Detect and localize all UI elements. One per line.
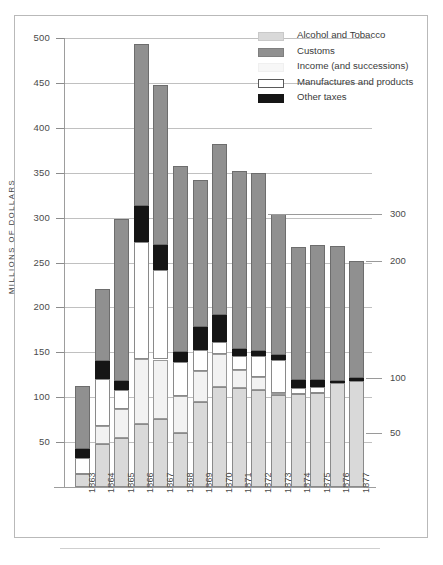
legend-item-manufactures[interactable]: Manufactures and products	[258, 76, 433, 92]
legend-item-alcohol[interactable]: Alcohol and Tobacco	[258, 29, 433, 45]
legend-item-other-taxes[interactable]: Other taxes	[258, 91, 433, 107]
bar-segment-other	[349, 378, 364, 381]
x-tick-label: 1871	[243, 472, 253, 493]
bar-segment-income	[153, 360, 168, 419]
bar-segment-income	[193, 371, 208, 402]
bar-segment-other	[212, 315, 227, 343]
legend-item-income[interactable]: Income (and successions)	[258, 60, 433, 76]
bar-segment-customs	[153, 85, 168, 245]
bar-segment-customs	[349, 261, 364, 379]
bar-1875[interactable]	[310, 245, 325, 487]
bar-segment-other	[232, 349, 247, 356]
x-tick-label: 1868	[185, 472, 195, 493]
legend-label: Alcohol and Tobacco	[297, 29, 385, 40]
legend-item-customs[interactable]: Customs	[258, 45, 433, 61]
bar-segment-income	[251, 377, 266, 390]
legend: Alcohol and Tobacco Customs Income (and …	[258, 29, 433, 107]
bar-segment-customs	[251, 173, 266, 351]
x-tick-label: 1873	[283, 472, 293, 493]
bar-segment-other	[310, 380, 325, 387]
bar-1869[interactable]	[193, 180, 208, 487]
bar-segment-income	[114, 409, 129, 438]
legend-label: Other taxes	[297, 91, 347, 102]
bar-segment-income	[212, 354, 227, 387]
bar-segment-customs	[114, 219, 129, 381]
annotation-label: 50	[390, 427, 401, 438]
legend-label: Manufactures and products	[297, 76, 413, 87]
bar-1867[interactable]	[153, 85, 168, 487]
annotation-leader-line	[268, 214, 382, 215]
bar-1866[interactable]	[134, 44, 149, 487]
bar-1872[interactable]	[251, 173, 266, 487]
bar-segment-manuf	[251, 356, 266, 378]
bar-1870[interactable]	[212, 144, 227, 487]
legend-swatch-customs-icon	[258, 48, 284, 57]
bar-segment-manuf	[271, 360, 286, 392]
x-tick-label: 1869	[204, 472, 214, 493]
x-tick-label: 1870	[224, 472, 234, 493]
annotation-leader-line	[366, 433, 382, 434]
bar-segment-manuf	[212, 342, 227, 354]
legend-label: Customs	[297, 45, 335, 56]
bar-1871[interactable]	[232, 171, 247, 487]
bar-segment-other	[291, 380, 306, 388]
annotation-label: 200	[390, 255, 406, 266]
bar-segment-other	[75, 449, 90, 458]
legend-swatch-alcohol-icon	[258, 32, 284, 41]
x-tick-label: 1874	[302, 472, 312, 493]
bar-segment-manuf	[193, 350, 208, 372]
x-tick-label: 1877	[361, 472, 371, 493]
bar-segment-other	[134, 206, 149, 242]
bar-segment-manuf	[310, 387, 325, 392]
bar-segment-other	[153, 245, 168, 270]
bar-1874[interactable]	[291, 247, 306, 487]
bar-1868[interactable]	[173, 166, 188, 487]
x-tick-label: 1866	[145, 472, 155, 493]
x-tick-label: 1875	[322, 472, 332, 493]
bar-1864[interactable]	[95, 289, 110, 487]
annotation-leader-line	[366, 261, 382, 262]
bar-1873[interactable]	[271, 214, 286, 487]
legend-swatch-manufactures-icon	[258, 79, 284, 88]
bar-segment-customs	[75, 386, 90, 449]
bar-1877[interactable]	[349, 261, 364, 487]
legend-label: Income (and successions)	[297, 60, 408, 71]
x-tick-label: 1865	[126, 472, 136, 493]
bar-segment-customs	[95, 289, 110, 361]
bar-segment-manuf	[173, 362, 188, 396]
bar-segment-manuf	[232, 356, 247, 370]
bar-segment-other	[173, 352, 188, 362]
annotation-leader-line	[366, 378, 382, 379]
bar-segment-income	[95, 426, 110, 444]
x-tick-label: 1863	[87, 472, 97, 493]
bar-segment-customs	[291, 247, 306, 380]
bar-segment-customs	[212, 144, 227, 315]
x-tick-label: 1872	[263, 472, 273, 493]
bar-segment-income	[271, 393, 286, 396]
legend-swatch-other-icon	[258, 94, 284, 103]
caption-rule	[60, 548, 380, 549]
bar-segment-manuf	[114, 390, 129, 409]
bar-segment-other	[95, 361, 110, 379]
bar-1865[interactable]	[114, 219, 129, 487]
bar-segment-manuf	[95, 379, 110, 426]
bar-segment-manuf	[291, 388, 306, 393]
bar-segment-other	[193, 327, 208, 349]
x-tick-label: 1867	[165, 472, 175, 493]
bar-segment-customs	[134, 44, 149, 206]
bar-segment-manuf	[134, 242, 149, 359]
bar-1876[interactable]	[330, 246, 345, 487]
bar-segment-customs	[310, 245, 325, 380]
bar-segment-customs	[173, 166, 188, 353]
bar-segment-customs	[271, 214, 286, 355]
chart-page: MILLIONS OF DOLLARS 50100150200250300350…	[0, 0, 443, 565]
bar-segment-income	[134, 359, 149, 425]
bar-segment-customs	[193, 180, 208, 327]
annotation-label: 300	[390, 208, 406, 219]
bar-segment-other	[330, 381, 345, 383]
bar-segment-manuf	[153, 270, 168, 360]
bar-segment-income	[232, 370, 247, 388]
bar-segment-other	[251, 351, 266, 356]
bar-segment-other	[271, 355, 286, 360]
bar-segment-customs	[232, 171, 247, 349]
